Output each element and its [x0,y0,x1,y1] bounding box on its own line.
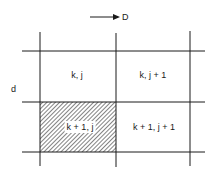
grid-diagram [0,0,212,178]
cell-label-k-j1: k, j + 1 [140,70,167,80]
cell-label-k-j: k, j [71,70,83,80]
axis-label-d: d [11,84,16,94]
arrow-label: D [122,12,129,22]
arrow-icon [90,14,120,20]
cell-label-k1-j1: k + 1, j + 1 [133,122,175,132]
cell-label-k1-j: k + 1, j [65,121,96,133]
